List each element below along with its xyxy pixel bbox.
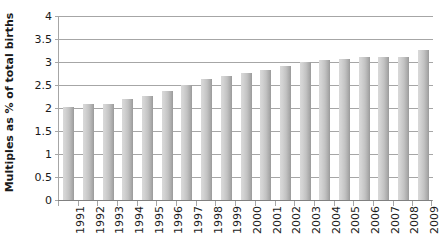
bar [63,107,74,200]
x-axis-tick-label: 1999 [230,206,246,250]
x-axis-tick-label: 1998 [211,206,227,250]
y-axis-tick-labels: 43.532.521.510.50 [20,0,56,210]
bar [103,104,114,200]
y-axis-tick-label: 2 [45,102,52,115]
bar [221,76,232,200]
x-axis-tick-label: 2002 [289,206,305,250]
bar [359,57,370,200]
x-axis-tick-label: 2003 [309,206,325,250]
y-axis-tick-label: 4 [45,10,52,23]
bar [378,57,389,200]
x-axis-tick-label: 1996 [171,206,187,250]
y-axis-tick-label: 3.5 [35,33,53,46]
y-axis-tick-label: 2.5 [35,79,53,92]
bar [83,104,94,200]
x-axis-tick-label: 1995 [152,206,168,250]
bar [241,73,252,200]
x-axis-tick-label: 2008 [407,206,423,250]
bar [319,60,330,200]
x-axis-tick-labels: 1991199219931994199519961997199819992000… [58,206,432,250]
bar [280,66,291,200]
bar-chart: Multiples as % of total births 43.532.52… [0,0,440,250]
x-axis-tick-label: 1991 [73,206,89,250]
x-axis-tick-label: 2009 [427,206,440,250]
x-axis-tick-label: 2001 [270,206,286,250]
y-axis-tick-label: 0 [45,194,52,207]
x-axis-tick-label: 2007 [388,206,404,250]
plot-area [58,16,433,200]
x-axis-tick-label: 2005 [348,206,364,250]
bar [122,99,133,200]
x-axis-tick-label: 1992 [93,206,109,250]
x-axis-tick-label: 1994 [132,206,148,250]
bar [201,79,212,200]
x-axis-tick-label: 1993 [112,206,128,250]
x-axis-tick-label: 2004 [329,206,345,250]
bar [181,85,192,200]
x-axis-tick-label: 1997 [191,206,207,250]
y-axis-tick-label: 0.5 [35,171,53,184]
bar [418,50,429,200]
x-axis-tick-label: 2000 [250,206,266,250]
x-axis-tick-label: 2006 [368,206,384,250]
bar [398,57,409,200]
bar [339,59,350,200]
bars-layer [59,16,433,200]
y-axis-tick-label: 3 [45,56,52,69]
bar [300,62,311,200]
bar [142,96,153,200]
y-axis-tick-label: 1 [45,148,52,161]
bar [162,91,173,200]
y-axis-title-label: Multiples as % of total births [4,13,17,193]
y-axis-tick-label: 1.5 [35,125,53,138]
bar [260,70,271,200]
y-axis-title: Multiples as % of total births [0,0,20,205]
